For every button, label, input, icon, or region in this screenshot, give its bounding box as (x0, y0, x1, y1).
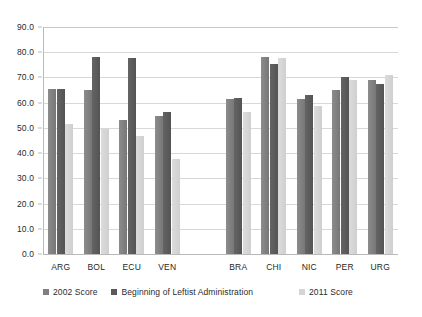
bar (261, 57, 269, 254)
watermark (402, 281, 420, 311)
y-axis-tick-label: 0.0 (22, 249, 34, 259)
chart-legend: 2002 ScoreBeginning of Leftist Administr… (43, 285, 398, 299)
x-axis-tick-label: BOL (87, 262, 105, 272)
bar-group (79, 27, 115, 254)
bar (128, 58, 136, 254)
bar (234, 98, 242, 254)
bar-group (43, 27, 79, 254)
x-axis-tick-label: URG (371, 262, 391, 272)
bar (368, 80, 376, 254)
bar (136, 136, 144, 254)
bar-group (327, 27, 363, 254)
bar (65, 124, 73, 254)
bar (172, 159, 180, 254)
bar (163, 112, 171, 254)
y-axis-tick-label: 40.0 (17, 148, 34, 158)
legend-swatch-icon (43, 289, 49, 295)
y-axis-tick-mark (38, 77, 42, 78)
legend-item[interactable]: 2002 Score (43, 287, 97, 297)
y-axis-tick-mark (38, 153, 42, 154)
bar-group (221, 27, 257, 254)
y-axis: 0.010.020.030.040.050.060.070.080.090.0 (0, 20, 41, 262)
bar-group (363, 27, 399, 254)
y-axis-tick-label: 90.0 (17, 22, 34, 32)
legend-label: Beginning of Leftist Administration (121, 287, 253, 297)
y-axis-tick-mark (38, 127, 42, 128)
bar (48, 89, 56, 254)
bar (314, 106, 322, 254)
bar (332, 90, 340, 254)
y-axis-tick-label: 50.0 (17, 123, 34, 133)
bar (57, 89, 65, 254)
bar (92, 57, 100, 254)
bar (155, 116, 163, 254)
bar (385, 75, 393, 254)
y-axis-tick-label: 70.0 (17, 72, 34, 82)
bar-group (292, 27, 328, 254)
y-axis-tick-label: 60.0 (17, 98, 34, 108)
x-axis-tick-label: ECU (122, 262, 141, 272)
bar (376, 84, 384, 254)
bar (226, 99, 234, 254)
legend-label: 2011 Score (309, 287, 353, 297)
legend-swatch-icon (111, 289, 117, 295)
bar (349, 80, 357, 254)
bar (270, 64, 278, 254)
y-axis-tick-label: 20.0 (17, 199, 34, 209)
bar (341, 77, 349, 254)
y-axis-tick-label: 30.0 (17, 173, 34, 183)
bar-group (150, 27, 186, 254)
bar (101, 129, 109, 254)
legend-item[interactable]: 2011 Score (299, 287, 353, 297)
x-axis-tick-label: ARG (51, 262, 70, 272)
y-axis-tick-label: 10.0 (17, 224, 34, 234)
x-axis-tick-label: CHI (266, 262, 281, 272)
x-axis-tick-label: BRA (229, 262, 247, 272)
y-axis-tick-mark (38, 228, 42, 229)
bar (297, 99, 305, 254)
bar (305, 95, 313, 254)
y-axis-tick-mark (38, 178, 42, 179)
bar-chart: 0.010.020.030.040.050.060.070.080.090.0 … (0, 0, 422, 317)
x-axis-tick-label: VEN (158, 262, 176, 272)
bar (84, 90, 92, 254)
bar-group (256, 27, 292, 254)
legend-item[interactable]: Beginning of Leftist Administration (111, 287, 253, 297)
bar-group (114, 27, 150, 254)
y-axis-tick-mark (38, 102, 42, 103)
x-axis-tick-label: PER (336, 262, 354, 272)
x-axis-labels: ARGBOLECUVENBRACHINICPERURG (43, 262, 398, 276)
y-axis-tick-label: 80.0 (17, 47, 34, 57)
y-axis-tick-mark (38, 27, 42, 28)
bar (119, 120, 127, 254)
bar (278, 58, 286, 254)
bar (243, 112, 251, 254)
y-axis-tick-mark (38, 52, 42, 53)
bars-layer (43, 27, 398, 254)
legend-swatch-icon (299, 289, 305, 295)
y-axis-tick-mark (38, 203, 42, 204)
y-axis-tick-mark (38, 254, 42, 255)
legend-label: 2002 Score (53, 287, 97, 297)
x-axis-tick-label: NIC (302, 262, 317, 272)
